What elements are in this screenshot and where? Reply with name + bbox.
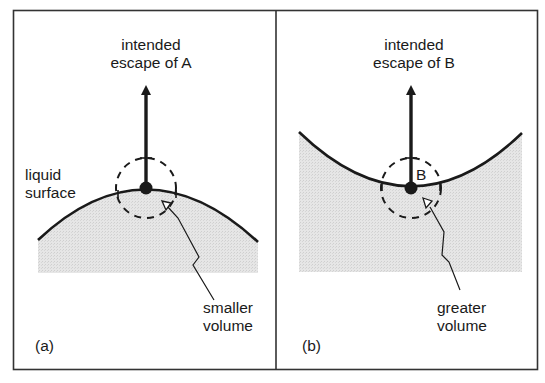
panel-a-tag: (a) bbox=[35, 337, 54, 355]
escape-title-a-line1: intended bbox=[96, 36, 206, 54]
escape-title-b-line1: intended bbox=[359, 36, 469, 54]
liquid-region-a bbox=[38, 189, 258, 273]
molecule-b-label: B bbox=[416, 166, 426, 184]
liquid-surface-label: liquid surface bbox=[25, 166, 76, 202]
greater-volume-label: greater volume bbox=[437, 299, 487, 335]
evaporation-curvature-diagram: intended escape of A liquid surface smal… bbox=[0, 0, 545, 383]
escape-title-a: intended escape of A bbox=[96, 36, 206, 72]
smaller-volume-label-line2: volume bbox=[203, 317, 253, 335]
panel-b-graphics bbox=[299, 90, 522, 290]
greater-volume-label-line1: greater bbox=[437, 299, 487, 317]
smaller-volume-label: smaller volume bbox=[203, 299, 253, 335]
escape-title-a-line2: escape of A bbox=[96, 54, 206, 72]
escape-title-b-line2: escape of B bbox=[359, 54, 469, 72]
greater-volume-label-line2: volume bbox=[437, 317, 487, 335]
liquid-surface-label-line2: surface bbox=[25, 184, 76, 202]
molecule-a bbox=[140, 182, 153, 195]
panel-b-tag: (b) bbox=[302, 337, 321, 355]
escape-title-b: intended escape of B bbox=[359, 36, 469, 72]
smaller-volume-label-line1: smaller bbox=[203, 299, 253, 317]
liquid-surface-label-line1: liquid bbox=[25, 166, 76, 184]
